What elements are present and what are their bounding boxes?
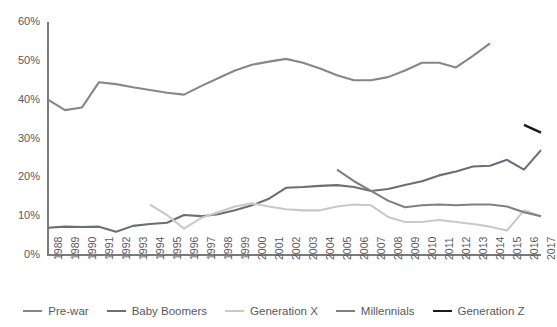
legend-item-generation-x[interactable]: Generation X	[225, 305, 318, 317]
x-tick-label: 1995	[171, 237, 183, 260]
x-tick-label: 2016	[528, 237, 540, 260]
legend-label: Generation Z	[458, 305, 525, 317]
x-tick-label: 2000	[256, 237, 268, 260]
x-tick-label: 1990	[86, 237, 98, 260]
x-tick-label: 2010	[426, 237, 438, 260]
legend-item-millennials[interactable]: Millennials	[336, 305, 415, 317]
legend-item-pre-war[interactable]: Pre-war	[23, 305, 88, 317]
x-tick-label: 2001	[273, 237, 285, 260]
x-tick-label: 2017	[545, 237, 557, 260]
x-tick-label: 2008	[392, 237, 404, 260]
x-tick-label: 1992	[120, 237, 132, 260]
legend-label: Millennials	[361, 305, 415, 317]
x-tick-label: 2002	[290, 237, 302, 260]
axis-lines	[48, 22, 541, 255]
series-line-baby-boomers	[48, 150, 541, 232]
legend-item-generation-z[interactable]: Generation Z	[433, 305, 525, 317]
x-tick-label: 2006	[358, 237, 370, 260]
y-tick-label: 30%	[0, 132, 40, 144]
x-tick-label: 1998	[222, 237, 234, 260]
y-tick-label: 0%	[0, 248, 40, 260]
x-tick-label: 2005	[341, 237, 353, 260]
x-tick-label: 1999	[239, 237, 251, 260]
x-tick-label: 2004	[324, 237, 336, 260]
x-tick-label: 1996	[188, 237, 200, 260]
x-tick-label: 2014	[494, 237, 506, 260]
x-tick-label: 1993	[137, 237, 149, 260]
y-tick-label: 50%	[0, 54, 40, 66]
legend-item-baby-boomers[interactable]: Baby Boomers	[107, 305, 207, 317]
series-line-pre-war	[48, 43, 490, 110]
legend-label: Pre-war	[48, 305, 88, 317]
x-tick-label: 1988	[52, 237, 64, 260]
series-line-generation-x	[150, 203, 541, 230]
y-tick-label: 10%	[0, 209, 40, 221]
x-tick-label: 2011	[443, 237, 455, 260]
x-tick-label: 1991	[103, 237, 115, 260]
legend-label: Generation X	[250, 305, 318, 317]
legend-swatch-line	[107, 310, 126, 312]
x-tick-label: 2012	[460, 237, 472, 260]
legend-swatch-line	[336, 310, 355, 312]
x-tick-label: 1997	[205, 237, 217, 260]
x-tick-label: 1994	[154, 237, 166, 260]
x-tick-label: 2015	[511, 237, 523, 260]
y-tick-label: 40%	[0, 93, 40, 105]
series-line-millennials	[337, 170, 541, 217]
x-tick-label: 2003	[307, 237, 319, 260]
series-line-generation-z	[524, 125, 541, 133]
x-tick-label: 2013	[477, 237, 489, 260]
y-tick-label: 20%	[0, 170, 40, 182]
legend-swatch-line	[225, 310, 244, 312]
x-tick-label: 2007	[375, 237, 387, 260]
legend-swatch-line	[23, 310, 42, 312]
chart-legend: Pre-warBaby BoomersGeneration XMillennia…	[0, 298, 548, 324]
legend-label: Baby Boomers	[132, 305, 207, 317]
x-tick-label: 1989	[69, 237, 81, 260]
legend-swatch-line	[433, 310, 452, 312]
y-tick-label: 60%	[0, 15, 40, 27]
x-tick-label: 2009	[409, 237, 421, 260]
